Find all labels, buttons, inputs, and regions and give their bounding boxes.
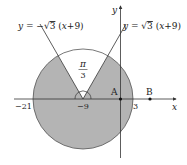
x-axis-label: x (172, 102, 177, 112)
svg-text:y = −√3 (x+9): y = −√3 (x+9) (17, 21, 84, 31)
point-a-label: A (110, 87, 118, 97)
tick-label-right: 3 (133, 102, 138, 111)
left-line-equation: y = −√3 (x+9) (17, 21, 84, 31)
svg-text:y = √3 (x+9): y = √3 (x+9) (122, 21, 181, 31)
svg-text:π: π (79, 59, 87, 69)
diagram-canvas: A B −21 −9 3 x y π 3 y = −√3 (x+9) y = √… (0, 0, 187, 165)
point-b-label: B (146, 87, 153, 97)
angle-label: π 3 (79, 59, 88, 80)
point-b (148, 97, 151, 100)
tick-label-left: −21 (15, 102, 32, 111)
right-line-equation: y = √3 (x+9) (122, 21, 181, 31)
point-a (119, 97, 122, 100)
tick-label-center: −9 (77, 102, 89, 111)
svg-text:3: 3 (81, 71, 86, 80)
y-axis-label: y (111, 5, 118, 15)
